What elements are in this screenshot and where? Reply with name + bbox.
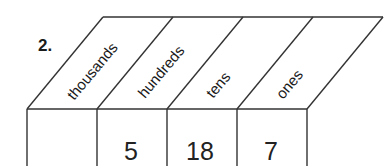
column-header-tens: tens bbox=[202, 68, 233, 101]
svg-text:hundreds: hundreds bbox=[134, 42, 187, 101]
cell-ones: 7 bbox=[264, 137, 278, 165]
place-value-exercise: 2. thousands hundreds ten bbox=[0, 0, 389, 166]
svg-text:ones: ones bbox=[272, 66, 306, 102]
svg-text:thousands: thousands bbox=[63, 39, 121, 103]
column-header-ones: ones bbox=[272, 66, 306, 102]
column-header-hundreds: hundreds bbox=[134, 42, 187, 101]
cell-hundreds: 5 bbox=[124, 137, 138, 165]
column-header-thousands: thousands bbox=[63, 39, 121, 103]
cell-tens: 18 bbox=[186, 137, 214, 165]
svg-text:tens: tens bbox=[202, 68, 233, 101]
place-value-chart: thousands hundreds tens ones 5 18 7 bbox=[0, 0, 389, 166]
